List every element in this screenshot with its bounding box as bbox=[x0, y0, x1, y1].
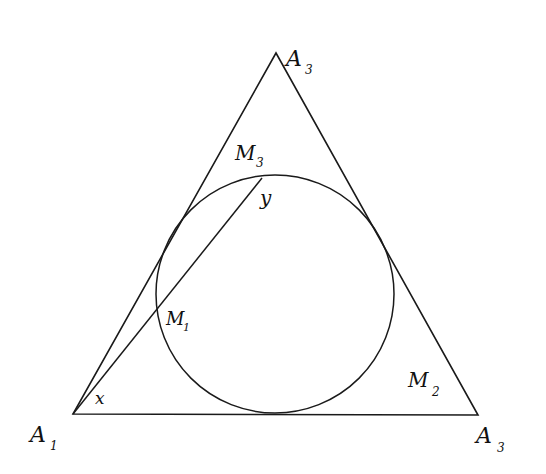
label-m3-sub: 3 bbox=[256, 156, 264, 170]
label-bottom-left-main: A bbox=[28, 422, 46, 447]
label-m2-main: M bbox=[407, 368, 429, 392]
label-y: y bbox=[259, 186, 272, 210]
label-m2: M 2 bbox=[407, 368, 440, 399]
chord-line bbox=[73, 178, 262, 414]
label-bottom-right-main: A bbox=[474, 423, 492, 448]
label-m3: M 3 bbox=[234, 141, 264, 170]
label-bottom-right: A 3 bbox=[474, 423, 505, 455]
label-bottom-right-sub: 3 bbox=[497, 441, 505, 455]
label-bottom-left: A 1 bbox=[28, 422, 58, 453]
inscribed-circle bbox=[156, 175, 394, 413]
label-m1-main: M bbox=[165, 308, 185, 329]
label-apex: A 3 bbox=[284, 46, 313, 77]
label-m2-sub: 2 bbox=[431, 385, 440, 399]
label-apex-main: A bbox=[284, 46, 302, 71]
label-m3-main: M bbox=[234, 141, 256, 165]
label-apex-sub: 3 bbox=[305, 63, 313, 77]
label-bottom-left-sub: 1 bbox=[50, 439, 58, 453]
label-x: x bbox=[95, 388, 105, 408]
label-m1-sub: 1 bbox=[183, 321, 190, 334]
label-m1: M 1 bbox=[165, 308, 190, 334]
triangle bbox=[73, 53, 478, 415]
geometry-diagram: A 3 M 3 y M 1 x M 2 A 1 A 3 bbox=[0, 0, 546, 474]
